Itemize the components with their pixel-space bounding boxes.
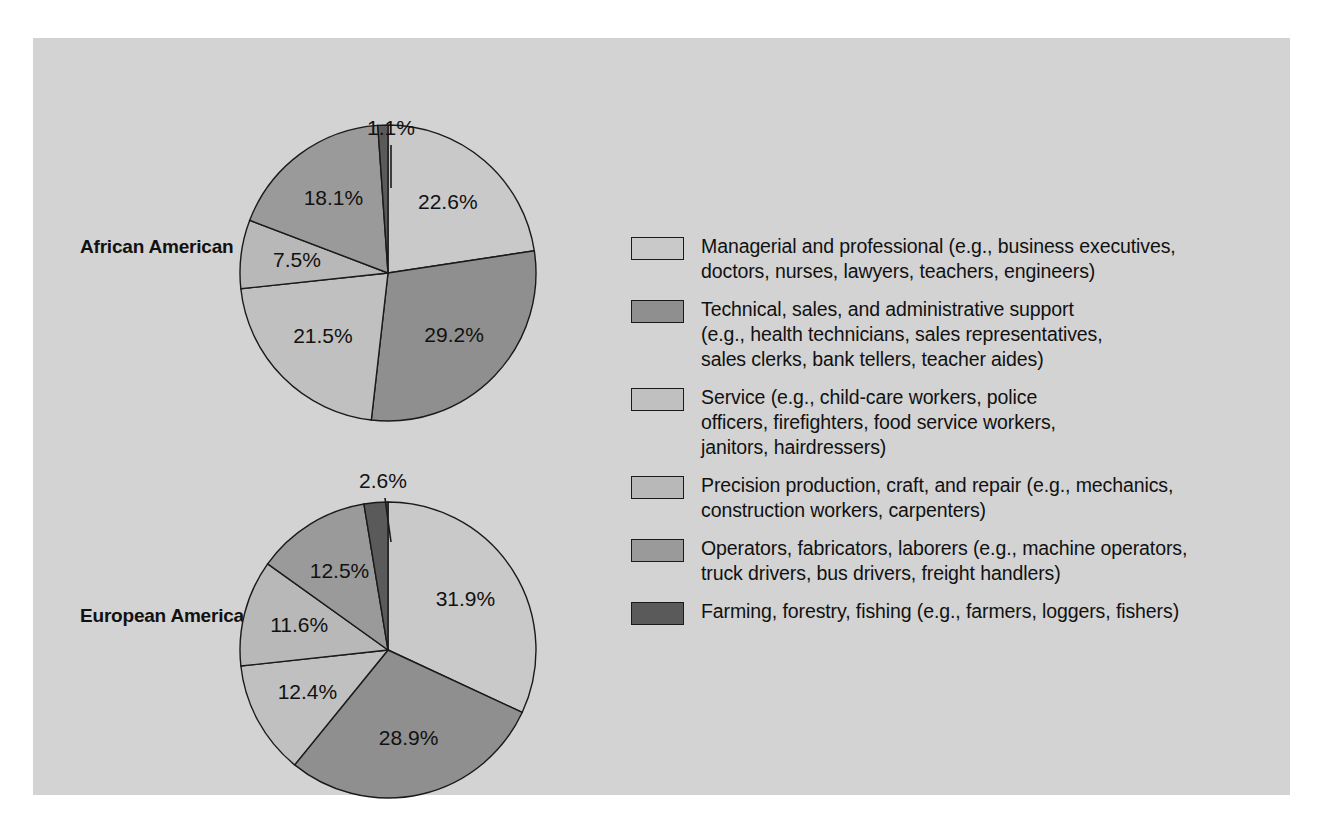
legend-swatch-managerial <box>631 237 684 260</box>
legend-label-farming: Farming, forestry, fishing (e.g., farmer… <box>701 599 1179 624</box>
pie-slices-european-american <box>240 502 536 798</box>
legend-item-operators: Operators, fabricators, laborers (e.g., … <box>631 536 1291 586</box>
pie-slice-label: 7.5% <box>273 248 321 271</box>
callout-label-smallest-slice: 1.1% <box>367 116 415 139</box>
legend-swatch-service <box>631 388 684 411</box>
legend-label-operators: Operators, fabricators, laborers (e.g., … <box>701 536 1187 586</box>
pie-slice-label: 18.1% <box>304 186 364 209</box>
legend-item-farming: Farming, forestry, fishing (e.g., farmer… <box>631 599 1291 625</box>
legend-swatch-precision <box>631 476 684 499</box>
pie-slice-label: 29.2% <box>424 323 484 346</box>
pie-slice-label: 21.5% <box>293 324 353 347</box>
legend-item-technical: Technical, sales, and administrative sup… <box>631 297 1291 372</box>
pie-slice-label: 12.4% <box>278 680 338 703</box>
legend-label-precision: Precision production, craft, and repair … <box>701 473 1173 523</box>
pie-slices-african-american <box>240 125 536 421</box>
legend-label-managerial: Managerial and professional (e.g., busin… <box>701 234 1176 284</box>
pie-slice-label: 12.5% <box>310 559 370 582</box>
pie-slice-label: 31.9% <box>436 587 496 610</box>
legend-swatch-farming <box>631 602 684 625</box>
legend-item-service: Service (e.g., child-care workers, polic… <box>631 385 1291 460</box>
legend-label-service: Service (e.g., child-care workers, polic… <box>701 385 1056 460</box>
pie-slice-label: 11.6% <box>270 613 328 636</box>
legend-label-technical: Technical, sales, and administrative sup… <box>701 297 1103 372</box>
pie-slice-label: 22.6% <box>418 190 478 213</box>
pie-slice-label: 28.9% <box>379 726 439 749</box>
pie-chart-african-american: 22.6%29.2%21.5%7.5%18.1% 1.1% <box>205 90 605 430</box>
legend: Managerial and professional (e.g., busin… <box>631 234 1291 638</box>
pie-svg-african-american: 22.6%29.2%21.5%7.5%18.1% 1.1% <box>205 90 605 430</box>
legend-item-managerial: Managerial and professional (e.g., busin… <box>631 234 1291 284</box>
pie-chart-european-american: 31.9%28.9%12.4%11.6%12.5% 2.6% <box>205 460 605 810</box>
legend-swatch-operators <box>631 539 684 562</box>
legend-swatch-technical <box>631 300 684 323</box>
figure-panel: African American European American 22.6%… <box>33 38 1290 795</box>
pie-svg-european-american: 31.9%28.9%12.4%11.6%12.5% 2.6% <box>205 460 605 810</box>
callout-label-smallest-slice: 2.6% <box>359 469 407 492</box>
legend-item-precision: Precision production, craft, and repair … <box>631 473 1291 523</box>
